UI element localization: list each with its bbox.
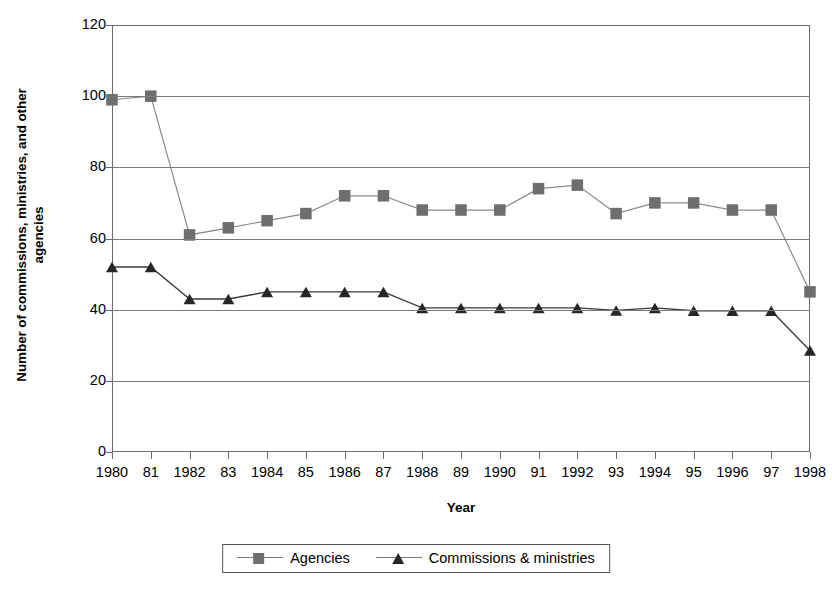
x-axis-tick-label: 1994: [639, 464, 671, 480]
data-point-square-marker: [727, 204, 739, 216]
x-axis-tick-label: 81: [143, 464, 159, 480]
plot-area: [112, 25, 810, 452]
data-point-square-marker: [223, 222, 235, 234]
x-axis-tick-label: 85: [298, 464, 314, 480]
y-axis-tick-label: 0: [60, 443, 106, 459]
x-axis-tick-mark: [577, 452, 578, 459]
x-axis-tick-mark: [539, 452, 540, 459]
legend-item-agencies: Agencies: [237, 550, 350, 566]
data-point-square-marker: [416, 204, 428, 216]
x-axis-tick-mark: [383, 452, 384, 459]
data-point-square-marker: [494, 204, 506, 216]
y-axis-tick-label: 40: [60, 301, 106, 317]
y-axis-tick-label: 60: [60, 230, 106, 246]
chart-figure: Number of commissions, ministries, and o…: [0, 0, 832, 607]
data-point-square-marker: [688, 197, 700, 209]
x-axis-tick-mark: [616, 452, 617, 459]
y-axis-title: Number of commissions, ministries, and o…: [0, 0, 60, 470]
data-point-square-marker: [455, 204, 467, 216]
data-point-square-marker: [610, 208, 622, 220]
x-axis-tick-mark: [306, 452, 307, 459]
legend-square-marker-icon: [237, 551, 283, 565]
x-axis-tick-mark: [771, 452, 772, 459]
x-axis-tick-label: 1998: [794, 464, 826, 480]
x-axis-tick-label: 97: [763, 464, 779, 480]
x-axis-tick-mark: [151, 452, 152, 459]
y-axis-title-line2: agencies: [30, 88, 47, 381]
gridline: [112, 381, 810, 382]
x-axis-tick-label: 93: [608, 464, 624, 480]
y-axis-title-line1: Number of commissions, ministries, and o…: [14, 88, 29, 381]
y-axis-tick-label: 80: [60, 158, 106, 174]
data-point-square-marker: [300, 208, 312, 220]
x-axis-tick-mark: [422, 452, 423, 459]
x-axis-tick-label: 1988: [406, 464, 438, 480]
x-axis-tick-mark: [112, 452, 113, 459]
gridline: [112, 310, 810, 311]
y-axis-tick-label: 120: [60, 16, 106, 32]
x-axis-tick-label: 1984: [251, 464, 283, 480]
x-axis-ticks: [112, 452, 810, 462]
chart-legend: Agencies Commissions & ministries: [222, 544, 610, 573]
data-point-square-marker: [378, 190, 390, 202]
data-point-square-marker: [804, 286, 816, 298]
x-axis-tick-mark: [461, 452, 462, 459]
x-axis-tick-mark: [190, 452, 191, 459]
x-axis-tick-label: 89: [453, 464, 469, 480]
y-axis-ticks: 020406080100120: [56, 25, 106, 452]
legend-triangle-marker-icon: [376, 551, 422, 565]
x-axis-tick-mark: [694, 452, 695, 459]
x-axis-tick-mark: [732, 452, 733, 459]
x-axis-tick-mark: [345, 452, 346, 459]
data-point-square-marker: [572, 179, 584, 191]
data-point-square-marker: [533, 183, 545, 195]
x-axis-tick-label: 95: [686, 464, 702, 480]
x-axis-tick-label: 1980: [96, 464, 128, 480]
series-agencies: [106, 90, 816, 297]
y-axis-tick-label: 100: [60, 87, 106, 103]
x-axis-tick-label: 83: [220, 464, 236, 480]
data-point-square-marker: [765, 204, 777, 216]
x-axis-title: Year: [112, 500, 810, 515]
x-axis-tick-label: 1996: [716, 464, 748, 480]
x-axis-tick-mark: [228, 452, 229, 459]
x-axis-tick-mark: [810, 452, 811, 459]
x-axis-tick-mark: [500, 452, 501, 459]
x-axis-tick-mark: [655, 452, 656, 459]
legend-item-commissions: Commissions & ministries: [376, 550, 595, 566]
x-axis-tick-label: 1986: [329, 464, 361, 480]
x-axis-tick-label: 91: [530, 464, 546, 480]
x-axis-tick-label: 1990: [484, 464, 516, 480]
data-point-square-marker: [339, 190, 351, 202]
gridline: [112, 239, 810, 240]
x-axis-tick-label: 1982: [173, 464, 205, 480]
gridline: [112, 96, 810, 97]
gridline: [112, 167, 810, 168]
data-point-square-marker: [261, 215, 273, 227]
y-axis-tick-label: 20: [60, 372, 106, 388]
x-axis-tick-label: 87: [375, 464, 391, 480]
x-axis-tick-label: 1992: [561, 464, 593, 480]
data-point-square-marker: [649, 197, 661, 209]
x-axis-tick-mark: [267, 452, 268, 459]
series-line: [112, 96, 810, 292]
x-axis-tick-labels: 1980811982831984851986871988891990911992…: [112, 464, 810, 488]
legend-label-commissions: Commissions & ministries: [429, 550, 595, 566]
legend-label-agencies: Agencies: [290, 550, 350, 566]
